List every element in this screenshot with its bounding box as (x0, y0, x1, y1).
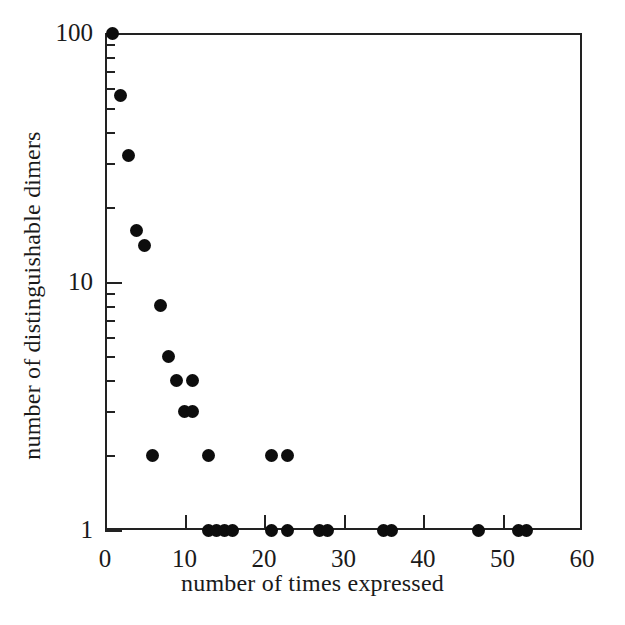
data-point (130, 224, 143, 237)
y-axis-tick-minor (105, 455, 115, 457)
y-axis-tick-minor (105, 71, 115, 73)
y-axis-tick-minor (105, 411, 115, 413)
data-point (265, 524, 278, 537)
x-axis-tick-label: 20 (234, 546, 294, 571)
y-axis-tick-minor (105, 356, 115, 358)
data-point (385, 524, 398, 537)
data-point (114, 89, 127, 102)
x-axis-tick-label: 40 (393, 546, 453, 571)
x-axis-title: number of times expressed (0, 570, 625, 597)
data-point (520, 524, 533, 537)
y-axis-tick-minor (105, 132, 115, 134)
y-axis-tick-minor (105, 57, 115, 59)
y-axis-tick-minor (105, 163, 115, 165)
data-point (472, 524, 485, 537)
x-axis-tick-major (185, 515, 187, 530)
data-point (202, 449, 215, 462)
x-axis-tick-major (503, 515, 505, 530)
y-axis-tick-minor (105, 380, 115, 382)
data-point (146, 449, 159, 462)
data-point (321, 524, 334, 537)
data-point (154, 299, 167, 312)
y-axis-tick-major (105, 530, 122, 532)
x-axis-tick-label: 50 (473, 546, 533, 571)
data-point (170, 374, 183, 387)
data-point (186, 374, 199, 387)
x-axis-tick-major (423, 515, 425, 530)
data-point (162, 350, 175, 363)
data-point (281, 524, 294, 537)
x-axis-tick-major (344, 515, 346, 530)
y-axis-title: number of distinguishable dimers (19, 36, 46, 556)
x-axis-tick-label: 30 (314, 546, 374, 571)
data-point (138, 239, 151, 252)
y-axis-tick-minor (105, 207, 115, 209)
y-axis-tick-minor (105, 337, 115, 339)
data-point (226, 524, 239, 537)
x-axis-tick-label: 60 (552, 546, 612, 571)
x-axis-tick-label: 10 (155, 546, 215, 571)
y-axis-tick-minor (105, 44, 115, 46)
y-axis-tick-major (105, 282, 122, 284)
y-axis-tick-minor (105, 320, 115, 322)
plot-area: 1101000102030405060 (105, 33, 582, 530)
data-point (122, 149, 135, 162)
scatter-chart-figure: 1101000102030405060 number of times expr… (0, 0, 625, 625)
y-axis-tick-minor (105, 293, 115, 295)
y-axis-tick-minor (105, 306, 115, 308)
y-axis-tick-minor (105, 88, 115, 90)
data-point (281, 449, 294, 462)
data-point (265, 449, 278, 462)
x-axis-tick-label: 0 (75, 546, 135, 571)
y-axis-tick-minor (105, 108, 115, 110)
data-point (186, 405, 199, 418)
data-point (106, 27, 119, 40)
